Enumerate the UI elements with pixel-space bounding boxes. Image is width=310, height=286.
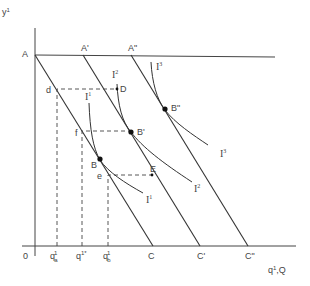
label-I1-bottom: I1 <box>146 194 152 205</box>
dashed-f-Bprime <box>82 131 131 246</box>
y-axis-label: y1 <box>2 7 11 17</box>
label-D: D <box>120 84 127 94</box>
label-Bprime: B' <box>137 127 145 137</box>
tick-q-star: q1* <box>76 250 87 261</box>
budget-line-A1C1 <box>83 55 200 246</box>
point-B <box>97 156 102 161</box>
tick-q-b: q1b <box>103 250 111 263</box>
label-e: e <box>97 171 102 181</box>
top-horizontal-line <box>35 55 275 57</box>
label-Cdprime: C" <box>245 251 255 261</box>
x-axis-label: q1,Q <box>268 265 286 275</box>
label-A: A <box>22 49 28 59</box>
point-Bdprime <box>162 106 167 111</box>
label-Bdprime: B" <box>171 103 180 113</box>
budget-line-AC <box>35 55 153 246</box>
label-B: B <box>91 160 97 170</box>
label-d: d <box>46 85 51 95</box>
label-I2-bottom: I2 <box>194 183 200 194</box>
label-I3-bottom: I3 <box>220 148 226 159</box>
label-I3-top: I3 <box>156 61 162 72</box>
label-E: E <box>150 164 156 174</box>
label-Adprime: A" <box>128 43 137 53</box>
label-Aprime: A' <box>81 43 89 53</box>
label-Cprime: C' <box>197 251 205 261</box>
point-E <box>151 174 154 177</box>
label-C: C <box>148 251 155 261</box>
tick-q-a: q1a <box>50 250 58 263</box>
origin-label: 0 <box>23 251 28 261</box>
point-D <box>116 88 119 91</box>
economics-diagram: y1 q1,Q 0 A A' A" C C' C" q1a q1* q1b d … <box>0 0 310 286</box>
label-I2-top: I2 <box>112 69 118 80</box>
label-f: f <box>75 128 78 138</box>
label-I1-top: I1 <box>85 91 91 102</box>
point-Bprime <box>128 129 133 134</box>
